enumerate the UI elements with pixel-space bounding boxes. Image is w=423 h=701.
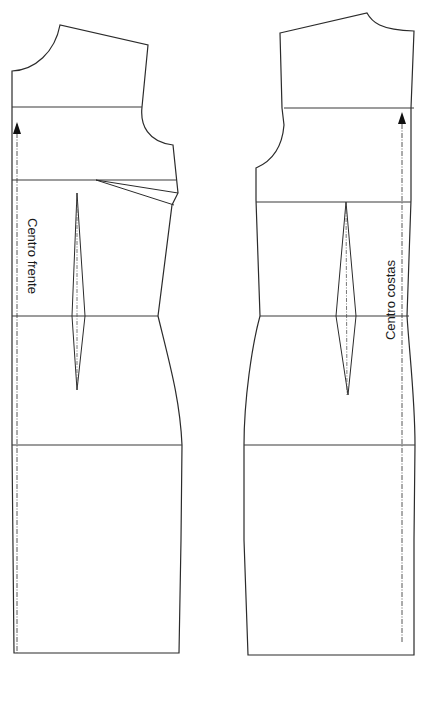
front-piece: Centro frente bbox=[12, 25, 182, 653]
front-waist-dart bbox=[72, 193, 85, 390]
front-outline bbox=[12, 25, 182, 653]
back-piece: Centro costas bbox=[244, 13, 415, 655]
pattern-diagram: Centro frente Centro costas bbox=[0, 0, 423, 701]
front-center-label: Centro frente bbox=[25, 218, 40, 294]
front-side-dart bbox=[96, 180, 178, 205]
back-waist-dart-center bbox=[346, 202, 347, 395]
back-center-label: Centro costas bbox=[383, 259, 398, 340]
back-grainline-arrow-icon bbox=[398, 112, 406, 124]
front-grainline-arrow-icon bbox=[13, 122, 21, 134]
back-waist-dart bbox=[336, 202, 356, 395]
